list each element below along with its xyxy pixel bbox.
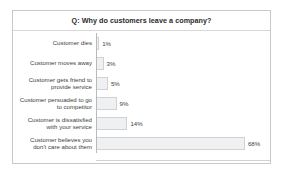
chart-frame: Q: Why do customers leave a company? Cus… [12,10,271,164]
bar-value-label: 68% [245,140,260,147]
category-label: Customer moves away [13,59,96,66]
chart-title-band: Q: Why do customers leave a company? [13,11,270,31]
category-label: Customer gets friend to provide service [13,76,96,90]
bar-row: Customer moves away 3% [13,53,270,73]
plot-area: Customer dies 1% Customer moves away 3% … [13,31,270,163]
bar-track: 14% [96,113,270,133]
bar-track: 5% [96,73,270,93]
bar-value-label: 5% [108,80,120,87]
bar-fill [97,117,127,130]
bar-track: 68% [96,133,270,153]
bar-row: Customer is dissatisfied with your servi… [13,113,270,133]
bar-track: 1% [96,33,270,53]
bar-value-label: 3% [104,60,116,67]
chart-title: Q: Why do customers leave a company? [72,16,212,25]
category-label: Customer is dissatisfied with your servi… [13,116,96,130]
bar-track: 9% [96,93,270,113]
bar-value-label: 1% [99,40,111,47]
bar-row: Customer gets friend to provide service … [13,73,270,93]
category-label: Customer dies [13,39,96,46]
axis-baseline [96,160,270,161]
bar-fill [97,97,117,110]
bar-value-label: 14% [127,120,142,127]
category-label: Customer persuaded to go to competitor [13,96,96,110]
bar-value-label: 9% [117,100,129,107]
bar-track: 3% [96,53,270,73]
bar-row: Customer persuaded to go to competitor 9… [13,93,270,113]
bar-fill [97,77,108,90]
bar-fill [97,137,245,150]
category-label: Customer believes you don't care about t… [13,136,96,150]
bar-row: Customer dies 1% [13,33,270,53]
bar-row: Customer believes you don't care about t… [13,133,270,153]
